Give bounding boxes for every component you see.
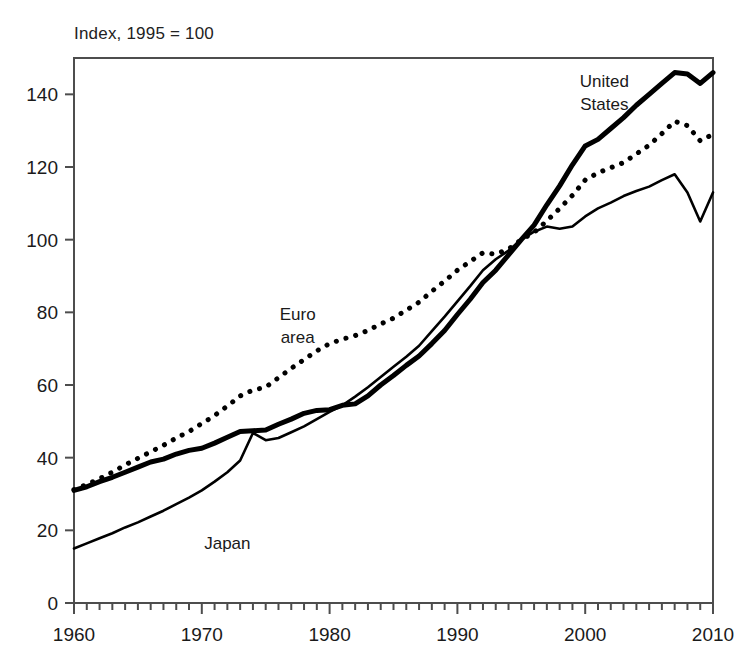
y-axis-tick-label: 40 bbox=[37, 448, 58, 469]
x-axis-tick-label: 1960 bbox=[53, 624, 95, 645]
series-annotation-japan: Japan bbox=[204, 534, 250, 553]
series-annotation-united-states: States bbox=[580, 95, 628, 114]
y-axis-tick-label: 80 bbox=[37, 302, 58, 323]
x-axis-tick-label: 1990 bbox=[436, 624, 478, 645]
series-line-japan bbox=[74, 174, 713, 548]
series-annotation-euro-area: Euro bbox=[280, 305, 316, 324]
plot-frame bbox=[74, 58, 713, 603]
y-axis-tick-label: 60 bbox=[37, 375, 58, 396]
x-axis-tick-label: 1980 bbox=[308, 624, 350, 645]
y-axis-tick-label: 120 bbox=[26, 157, 58, 178]
x-axis-tick-label: 2010 bbox=[692, 624, 734, 645]
y-axis-tick-label: 20 bbox=[37, 520, 58, 541]
y-axis-tick-label: 140 bbox=[26, 84, 58, 105]
series-line-euro-area bbox=[74, 121, 713, 489]
y-axis-tick-label: 100 bbox=[26, 230, 58, 251]
series-line-united-states bbox=[74, 73, 713, 491]
line-chart-plot: 0204060801001201401960197019801990200020… bbox=[0, 0, 749, 671]
x-axis-tick-label: 1970 bbox=[181, 624, 223, 645]
x-axis-tick-label: 2000 bbox=[564, 624, 606, 645]
series-annotation-united-states: United bbox=[580, 72, 629, 91]
series-annotation-euro-area: area bbox=[281, 328, 316, 347]
y-axis-tick-label: 0 bbox=[47, 593, 58, 614]
chart-container: Index, 1995 = 100 0204060801001201401960… bbox=[0, 0, 749, 671]
